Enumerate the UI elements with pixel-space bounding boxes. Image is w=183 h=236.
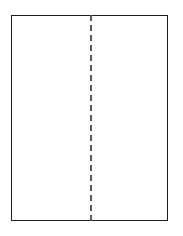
fold-line-label: fold line <box>12 16 13 17</box>
diagram-canvas: sheet fold line <box>0 0 183 236</box>
fold-line <box>90 15 92 221</box>
sheet-outline: sheet fold line <box>11 15 168 221</box>
sheet-label: sheet <box>12 16 13 17</box>
